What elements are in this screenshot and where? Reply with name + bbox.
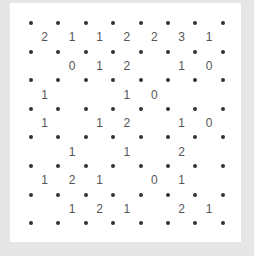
grid-dot (166, 107, 170, 111)
grid-dot (166, 193, 170, 197)
clue-cell[interactable]: 1 (90, 115, 110, 131)
clue-cell[interactable]: 0 (144, 87, 164, 103)
clue-cell[interactable] (199, 144, 219, 160)
clue-cell[interactable]: 1 (117, 144, 137, 160)
grid-dot (56, 107, 60, 111)
grid-dot (29, 21, 33, 25)
puzzle-board: 211223101210110112101121210112121 (10, 3, 241, 242)
clue-cell[interactable]: 2 (117, 29, 137, 45)
grid-dot (139, 221, 143, 225)
grid-dot (84, 78, 88, 82)
grid-dot (111, 78, 115, 82)
grid-dot (193, 107, 197, 111)
grid-dot (166, 78, 170, 82)
grid-dot (193, 164, 197, 168)
grid-dot (193, 193, 197, 197)
grid-dot (29, 221, 33, 225)
clue-cell[interactable] (144, 115, 164, 131)
clue-cell[interactable] (90, 144, 110, 160)
clue-cell[interactable] (199, 172, 219, 188)
clue-cell[interactable]: 2 (144, 29, 164, 45)
clue-cell[interactable]: 1 (117, 87, 137, 103)
grid-dot (166, 164, 170, 168)
grid-dot (193, 135, 197, 139)
clue-cell[interactable]: 1 (62, 29, 82, 45)
grid-dot (193, 221, 197, 225)
grid-dot (56, 164, 60, 168)
clue-cell[interactable]: 1 (62, 144, 82, 160)
clue-cell[interactable]: 0 (199, 58, 219, 74)
grid-dot (111, 193, 115, 197)
clue-cell[interactable]: 0 (199, 115, 219, 131)
clue-cell[interactable] (35, 144, 55, 160)
clue-cell[interactable]: 1 (172, 58, 192, 74)
clue-cell[interactable]: 2 (172, 144, 192, 160)
grid-dot (56, 193, 60, 197)
grid-dot (221, 21, 225, 25)
clue-cell[interactable] (62, 87, 82, 103)
grid-dot (139, 193, 143, 197)
clue-cell[interactable]: 1 (117, 201, 137, 217)
grid-dot (221, 107, 225, 111)
grid-dot (111, 135, 115, 139)
clue-cell[interactable]: 1 (90, 172, 110, 188)
clue-cell[interactable] (144, 144, 164, 160)
clue-cell[interactable] (90, 87, 110, 103)
clue-cell[interactable]: 1 (35, 115, 55, 131)
grid-dot (193, 50, 197, 54)
grid-dot (29, 193, 33, 197)
grid-dot (29, 135, 33, 139)
clue-cell[interactable] (117, 172, 137, 188)
grid-dot (84, 164, 88, 168)
grid-dot (193, 78, 197, 82)
clue-cell[interactable]: 0 (144, 172, 164, 188)
clue-cell[interactable]: 2 (117, 58, 137, 74)
grid-dot (84, 193, 88, 197)
clue-cell[interactable]: 1 (62, 201, 82, 217)
clue-cell[interactable]: 1 (90, 58, 110, 74)
grid-dot (221, 164, 225, 168)
clue-cell[interactable] (35, 201, 55, 217)
grid-dot (56, 21, 60, 25)
grid-dot (139, 107, 143, 111)
grid-dot (56, 50, 60, 54)
grid-dot (193, 21, 197, 25)
clue-cell[interactable]: 3 (172, 29, 192, 45)
clue-cell[interactable]: 2 (117, 115, 137, 131)
clue-cell[interactable]: 1 (172, 172, 192, 188)
clue-cell[interactable]: 2 (90, 201, 110, 217)
grid-dot (221, 50, 225, 54)
clue-cell[interactable]: 1 (90, 29, 110, 45)
clue-cell[interactable]: 1 (199, 29, 219, 45)
clue-cell[interactable]: 2 (35, 29, 55, 45)
grid-dot (84, 107, 88, 111)
grid-dot (29, 78, 33, 82)
grid-dot (139, 135, 143, 139)
clue-cell[interactable]: 1 (172, 115, 192, 131)
clue-cell[interactable] (199, 87, 219, 103)
clue-cell[interactable]: 0 (62, 58, 82, 74)
grid-dot (29, 164, 33, 168)
grid-dot (111, 107, 115, 111)
clue-cell[interactable]: 1 (35, 172, 55, 188)
clue-cell[interactable] (35, 58, 55, 74)
clue-cell[interactable]: 2 (172, 201, 192, 217)
grid-dot (139, 50, 143, 54)
clue-cell[interactable]: 2 (62, 172, 82, 188)
grid-dot (84, 21, 88, 25)
clue-cell[interactable] (62, 115, 82, 131)
clue-cell[interactable] (172, 87, 192, 103)
clue-cell[interactable] (144, 201, 164, 217)
grid-dot (166, 21, 170, 25)
grid-dot (139, 78, 143, 82)
grid-dot (56, 221, 60, 225)
grid-dot (84, 135, 88, 139)
clue-cell[interactable] (144, 58, 164, 74)
grid-dot (29, 107, 33, 111)
grid-dot (221, 78, 225, 82)
grid-dot (111, 221, 115, 225)
clue-cell[interactable]: 1 (199, 201, 219, 217)
clue-cell[interactable]: 1 (35, 87, 55, 103)
app-frame: 211223101210110112101121210112121 (0, 0, 254, 256)
grid-dot (56, 78, 60, 82)
